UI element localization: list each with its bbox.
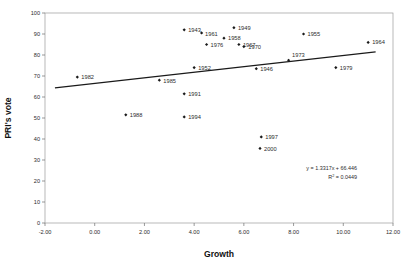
y-tick-label: 50 — [34, 115, 40, 121]
trendline — [55, 52, 376, 88]
x-axis-ticks: -2.000.002.004.006.008.0010.0012.00 — [39, 223, 400, 235]
data-point-label: 1985 — [163, 78, 176, 84]
data-point-label: 1970 — [248, 44, 261, 50]
data-point-marker — [76, 75, 79, 78]
x-tick-label: 0.00 — [89, 229, 100, 235]
data-point-label: 1964 — [372, 39, 385, 45]
data-point-label: 1997 — [265, 134, 278, 140]
data-point-marker — [124, 113, 127, 116]
y-tick-label: 70 — [34, 73, 40, 79]
y-tick-label: 80 — [34, 52, 40, 58]
data-point-label: 1958 — [228, 35, 241, 41]
data-point-marker — [183, 28, 186, 31]
data-point-label: 1973 — [292, 52, 305, 58]
data-point-marker — [260, 135, 263, 138]
data-point-label: 1994 — [188, 114, 201, 120]
y-axis-title: PRI's vote — [3, 97, 13, 138]
data-point-marker — [205, 43, 208, 46]
y-tick-label: 100 — [31, 10, 40, 16]
data-point-marker — [255, 67, 258, 70]
data-point-label: 1946 — [260, 66, 273, 72]
data-point-label: 1949 — [238, 25, 251, 31]
data-point-marker — [237, 43, 240, 46]
x-tick-label: 2.00 — [139, 229, 150, 235]
y-axis-ticks: 0102030405060708090100 — [31, 10, 45, 226]
data-point-marker — [222, 37, 225, 40]
y-tick-label: 20 — [34, 178, 40, 184]
data-point-label: 1961 — [205, 31, 218, 37]
r-squared-value: R2 = 0.0449 — [328, 174, 357, 180]
data-point-marker — [158, 79, 161, 82]
y-tick-label: 90 — [34, 31, 40, 37]
data-point-marker — [232, 26, 235, 29]
data-point-label: 1991 — [188, 91, 201, 97]
x-tick-label: 10.00 — [336, 229, 350, 235]
data-points: 1943196119491958197619671970195519641973… — [76, 25, 385, 152]
x-tick-label: 12.00 — [386, 229, 400, 235]
data-point-label: 2000 — [264, 146, 277, 152]
data-point-label: 1955 — [308, 31, 321, 37]
data-point-label: 1982 — [81, 74, 94, 80]
data-point-marker — [302, 32, 305, 35]
data-point-marker — [258, 147, 261, 150]
x-tick-label: -2.00 — [39, 229, 52, 235]
data-point-label: 1952 — [198, 65, 211, 71]
chart-canvas: 0102030405060708090100 -2.000.002.004.00… — [0, 0, 411, 262]
data-point-label: 1988 — [130, 112, 143, 118]
regression-equation: y = 1.3317x + 66.446 — [306, 165, 357, 171]
data-point-marker — [334, 66, 337, 69]
y-tick-label: 0 — [37, 220, 40, 226]
y-tick-label: 30 — [34, 157, 40, 163]
regression-annotation: y = 1.3317x + 66.446 R2 = 0.0449 — [306, 165, 357, 180]
scatter-chart: 0102030405060708090100 -2.000.002.004.00… — [0, 0, 411, 262]
data-point-label: 1979 — [340, 65, 353, 71]
y-tick-label: 40 — [34, 136, 40, 142]
data-point-label: 1943 — [188, 27, 201, 33]
x-tick-label: 4.00 — [189, 229, 200, 235]
data-point-label: 1976 — [211, 42, 224, 48]
data-point-marker — [183, 92, 186, 95]
x-tick-label: 8.00 — [288, 229, 299, 235]
y-tick-label: 60 — [34, 94, 40, 100]
x-tick-label: 6.00 — [238, 229, 249, 235]
data-point-marker — [367, 41, 370, 44]
x-axis-title: Growth — [204, 249, 234, 259]
data-point-marker — [193, 66, 196, 69]
trend-line-segment — [55, 52, 376, 88]
y-tick-label: 10 — [34, 199, 40, 205]
data-point-marker — [183, 115, 186, 118]
